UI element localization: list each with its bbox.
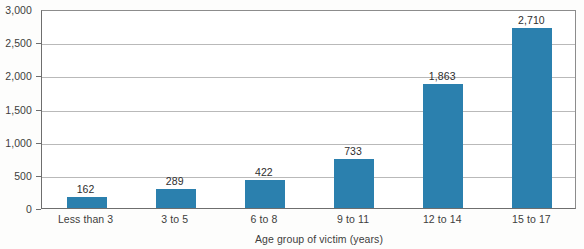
y-axis-tick-label: 3,000	[5, 4, 32, 16]
bar-value-label: 2,710	[491, 14, 571, 26]
y-axis-tick-label: 1,500	[5, 104, 32, 116]
gridline	[42, 44, 575, 45]
gridline	[42, 77, 575, 78]
bar[interactable]	[67, 197, 107, 208]
y-axis-tick-label: 2,000	[5, 70, 32, 82]
gridline	[42, 177, 575, 178]
y-axis-tick-label: 0	[26, 203, 32, 215]
x-axis-tick-label: 15 to 17	[486, 213, 576, 225]
bar-chart: 05001,0001,5002,0002,5003,000 Less than …	[0, 0, 584, 249]
bar-value-label: 289	[135, 175, 215, 187]
bar[interactable]	[512, 28, 552, 208]
bar[interactable]	[423, 84, 463, 208]
x-axis-title: Age group of victim (years)	[0, 233, 584, 245]
x-axis-tick-label: 12 to 14	[397, 213, 487, 225]
bar[interactable]	[156, 189, 196, 208]
gridline	[42, 111, 575, 112]
x-axis-tick-label: 9 to 11	[308, 213, 398, 225]
bar-value-label: 733	[313, 145, 393, 157]
x-axis-tick-label: 3 to 5	[130, 213, 220, 225]
y-axis-tick-mark	[36, 209, 41, 210]
bar-value-label: 162	[46, 183, 126, 195]
plot-area	[41, 10, 576, 209]
y-axis-tick-label: 2,500	[5, 37, 32, 49]
gridline	[42, 144, 575, 145]
bar[interactable]	[334, 159, 374, 208]
x-axis-tick-label: Less than 3	[41, 213, 131, 225]
bar-value-label: 422	[224, 166, 304, 178]
y-axis-tick-label: 500	[14, 170, 32, 182]
bar-value-label: 1,863	[402, 70, 482, 82]
x-axis-tick-label: 6 to 8	[219, 213, 309, 225]
y-axis-tick-label: 1,000	[5, 137, 32, 149]
bar[interactable]	[245, 180, 285, 208]
